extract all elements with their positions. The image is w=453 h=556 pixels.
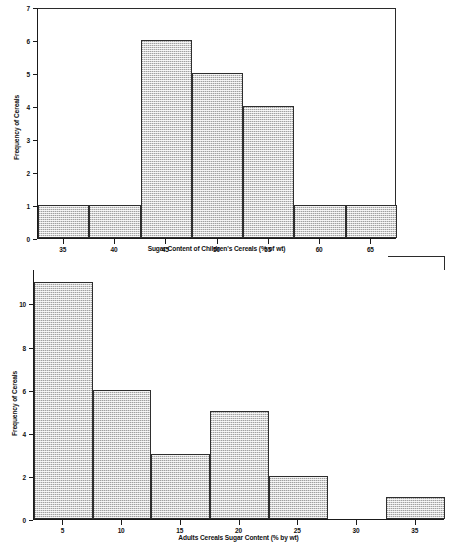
histogram-bar [386, 497, 445, 519]
x-axis-tick [121, 520, 122, 525]
y-axis-tick-label: 7 [11, 5, 30, 12]
y-axis-tick [29, 304, 33, 305]
x-axis-title-children-cereals: Sugar Content of Children's Cereals (% o… [37, 245, 396, 252]
x-axis-tick-label: 20 [235, 527, 242, 534]
x-axis-tick [319, 239, 320, 244]
x-axis-tick [165, 239, 166, 244]
x-axis-tick [415, 520, 416, 525]
plot-area-adults-cereals [33, 270, 444, 520]
histogram-bar [38, 205, 89, 238]
bars-children-cereals [38, 9, 395, 238]
chart-children-cereals: 01234567 35404550556065 Frequency of Cer… [0, 0, 453, 252]
y-axis-tick-label: 0 [7, 517, 26, 524]
y-axis-tick [33, 140, 37, 141]
y-axis-tick-label: 8 [7, 344, 26, 351]
x-axis-tick-label: 35 [411, 527, 418, 534]
y-axis-tick [29, 477, 33, 478]
y-axis-tick [33, 107, 37, 108]
y-axis-tick [33, 173, 37, 174]
x-axis-tick [62, 520, 63, 525]
y-axis-tick [29, 348, 33, 349]
x-axis-tick-label: 15 [176, 527, 183, 534]
y-axis-tick-label: 5 [11, 71, 30, 78]
figure-two-histograms: 01234567 35404550556065 Frequency of Cer… [0, 0, 453, 556]
x-axis-tick-label: 25 [294, 527, 301, 534]
y-axis-tick [29, 434, 33, 435]
x-axis-tick [63, 239, 64, 244]
y-axis-tick-label: 2 [7, 473, 26, 480]
histogram-bar [141, 40, 192, 238]
x-axis-tick [370, 239, 371, 244]
histogram-bar [210, 411, 269, 519]
y-axis-tick [33, 206, 37, 207]
y-axis-tick [33, 41, 37, 42]
x-axis-title-adults-cereals: Adults Cereals Sugar Content (% by wt) [33, 534, 444, 541]
histogram-bar [93, 390, 152, 519]
y-axis-tick [29, 391, 33, 392]
histogram-bar [269, 476, 328, 519]
y-axis-tick-label: 2 [11, 170, 30, 177]
histogram-bar [89, 205, 140, 238]
x-axis-tick [114, 239, 115, 244]
plot-area-children-cereals [37, 8, 396, 239]
histogram-bar [151, 454, 210, 519]
y-axis-title-adults-cereals: Frequency of Cereals [11, 371, 18, 436]
x-axis-tick-label: 10 [118, 527, 125, 534]
y-axis-tick-label: 6 [11, 38, 30, 45]
x-axis-tick [297, 520, 298, 525]
x-axis-tick [356, 520, 357, 525]
y-axis-tick-label: 1 [11, 203, 30, 210]
histogram-bar [243, 106, 294, 238]
y-axis-tick [33, 8, 37, 9]
histogram-bar [34, 282, 93, 519]
histogram-bar [346, 205, 397, 238]
y-axis-tick [29, 520, 33, 521]
y-axis-tick [33, 239, 37, 240]
x-axis-tick-label: 30 [353, 527, 360, 534]
histogram-bar [192, 73, 243, 238]
chart-adults-cereals: 0246810 5101520253035 Frequency of Cerea… [0, 256, 453, 556]
bars-adults-cereals [34, 270, 444, 519]
x-axis-tick [268, 239, 269, 244]
y-axis-tick-label: 10 [7, 301, 26, 308]
y-axis-title-children-cereals: Frequency of Cereals [13, 95, 20, 160]
x-axis-tick-label: 5 [61, 527, 64, 534]
y-axis-tick [33, 74, 37, 75]
x-axis-tick [239, 520, 240, 525]
y-axis-tick-label: 0 [11, 236, 30, 243]
x-axis-tick [217, 239, 218, 244]
x-axis-tick [180, 520, 181, 525]
histogram-bar [294, 205, 345, 238]
